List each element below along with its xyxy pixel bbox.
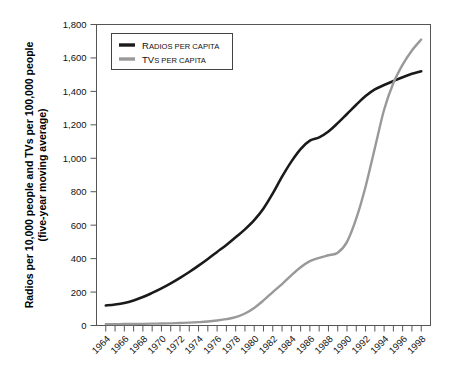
chart-figure: Radios per 10,000 people and TVs per 100… xyxy=(0,0,464,376)
y-axis-title-line2: (five-year moving average) xyxy=(36,108,48,241)
y-tick-label: 600 xyxy=(71,220,87,231)
y-tick-label: 1,200 xyxy=(63,119,87,130)
line-chart: Radios per 10,000 people and TVs per 100… xyxy=(0,0,464,376)
x-tick-label: 1976 xyxy=(201,333,224,356)
x-tick-label: 1968 xyxy=(127,333,150,356)
x-tick-label: 1992 xyxy=(349,333,372,356)
x-tick-label: 1988 xyxy=(312,333,335,356)
x-tick-label: 1996 xyxy=(386,333,409,356)
x-tick-label: 1984 xyxy=(275,333,298,356)
x-tick-label: 1972 xyxy=(164,333,187,356)
y-axis: 02004006008001,0001,2001,4001,6001,800 xyxy=(63,19,97,331)
x-tick-label: 1994 xyxy=(368,333,391,356)
x-tick-label: 1970 xyxy=(145,333,168,356)
x-tick-label: 1964 xyxy=(89,333,112,356)
x-tick-label: 1990 xyxy=(331,333,354,356)
chart-legend: RADIOS PER CAPITA TVS PER CAPITA xyxy=(112,34,233,70)
x-tick-label: 1982 xyxy=(256,333,279,356)
y-axis-title-line1: Radios per 10,000 people and TVs per 100… xyxy=(23,41,35,308)
series-group xyxy=(106,40,421,325)
series-line-radios xyxy=(106,71,421,305)
y-tick-label: 0 xyxy=(81,320,86,331)
x-tick-label: 1998 xyxy=(405,333,428,356)
x-tick-label: 1966 xyxy=(108,333,131,356)
x-tick-label: 1980 xyxy=(238,333,261,356)
y-tick-label: 800 xyxy=(71,186,87,197)
legend-label-radios: RADIOS PER CAPITA xyxy=(142,40,220,51)
y-tick-label: 200 xyxy=(71,287,87,298)
y-axis-title: Radios per 10,000 people and TVs per 100… xyxy=(23,41,48,308)
x-axis: 1964196619681970197219741976197819801982… xyxy=(89,326,427,356)
y-tick-label: 1,000 xyxy=(63,153,87,164)
series-line-tvs xyxy=(106,40,421,325)
x-tick-label: 1986 xyxy=(294,333,317,356)
y-tick-label: 1,400 xyxy=(63,86,87,97)
y-tick-label: 1,600 xyxy=(63,52,87,63)
y-tick-label: 1,800 xyxy=(63,19,87,30)
x-tick-label: 1978 xyxy=(219,333,242,356)
legend-label-tvs: TVS PER CAPITA xyxy=(142,54,207,65)
y-tick-label: 400 xyxy=(71,253,87,264)
x-tick-label: 1974 xyxy=(182,333,205,356)
